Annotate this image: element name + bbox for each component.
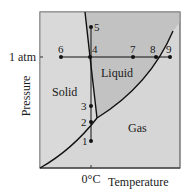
point-8 xyxy=(154,55,158,59)
point-7 xyxy=(131,55,135,59)
point-9 xyxy=(168,55,172,59)
x-axis-label: Temperature xyxy=(108,175,168,189)
point-label-7: 7 xyxy=(130,43,136,55)
region-label-solid: Solid xyxy=(52,85,77,99)
y-tick-label: 1 atm xyxy=(9,50,37,64)
point-label-2: 2 xyxy=(81,116,87,128)
point-6 xyxy=(59,55,63,59)
point-label-3: 3 xyxy=(81,100,87,112)
x-tick-label: 0°C xyxy=(82,172,101,186)
point-label-6: 6 xyxy=(58,43,64,55)
point-4 xyxy=(88,55,92,59)
point-2 xyxy=(89,120,93,124)
phase-diagram: 1 2 3 4 5 6 7 8 9 Solid Liquid Gas 1 atm… xyxy=(0,0,186,191)
point-3 xyxy=(89,104,93,108)
point-label-1: 1 xyxy=(82,135,88,147)
point-label-5: 5 xyxy=(94,21,100,33)
point-5 xyxy=(89,25,93,29)
point-label-4: 4 xyxy=(92,43,98,55)
point-label-8: 8 xyxy=(150,43,156,55)
point-label-9: 9 xyxy=(166,43,172,55)
region-label-gas: Gas xyxy=(128,121,147,135)
y-axis-label: Pressure xyxy=(19,76,33,117)
point-1 xyxy=(89,139,93,143)
region-label-liquid: Liquid xyxy=(101,66,133,80)
